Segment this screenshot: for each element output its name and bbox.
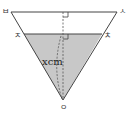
label-top-right: ㅅ <box>119 7 126 16</box>
label-top-left: ㅂ <box>2 7 9 16</box>
label-height: xcm <box>42 56 63 67</box>
label-apex: ㅇ <box>60 103 67 112</box>
cone-diagram: ㅂ ㅅ ㅈ ㅊ ㅇ xcm <box>0 0 134 115</box>
label-water-right: ㅊ <box>104 31 111 40</box>
right-angle-marker-top <box>63 12 68 17</box>
label-water-left: ㅈ <box>14 31 21 40</box>
